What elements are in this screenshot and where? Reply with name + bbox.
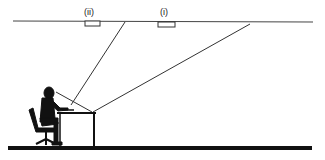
lighting-diagram: (ii) (i)	[0, 0, 325, 160]
light-fixture-ii	[85, 21, 100, 26]
light-label-i: (i)	[160, 8, 168, 17]
light-fixture-i	[158, 22, 175, 27]
reflection-line-desk-edge	[93, 24, 250, 112]
reflection-line-keyboard	[71, 22, 125, 105]
seated-person	[40, 87, 68, 145]
diagram-svg	[0, 0, 325, 160]
light-label-ii: (ii)	[84, 8, 94, 17]
